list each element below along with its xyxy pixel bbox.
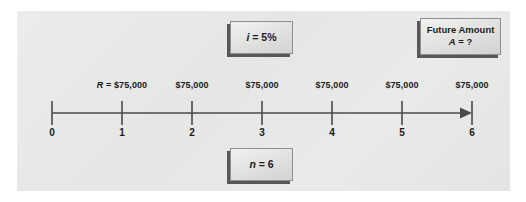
period-label-1: 1 (119, 127, 125, 138)
cash-flow-label-2: $75,000 (175, 80, 208, 90)
cash-flow-amount-4: $75,000 (315, 80, 348, 90)
cash-flow-amount-1: $75,000 (114, 80, 147, 90)
cash-flow-amount-6: $75,000 (455, 80, 488, 90)
period-label-6: 6 (469, 127, 475, 138)
axis-arrow-icon (460, 108, 472, 119)
timeline: R = $75,000 $75,000 $75,000 $75,000 $75,… (17, 11, 510, 191)
cash-flow-amount-5: $75,000 (385, 80, 418, 90)
period-label-3: 3 (259, 127, 265, 138)
cash-flow-label-1: R = $75,000 (97, 80, 147, 90)
cash-flow-prefix-1: R (97, 80, 104, 90)
cash-flow-amount-2: $75,000 (175, 80, 208, 90)
cash-flow-diagram-panel: i = 5% n = 6 Future Amount A = ? (17, 11, 510, 191)
period-label-2: 2 (189, 127, 195, 138)
cash-flow-label-3: $75,000 (245, 80, 278, 90)
period-label-0: 0 (49, 127, 55, 138)
period-label-5: 5 (399, 127, 405, 138)
cash-flow-equals-1: = (103, 80, 114, 90)
period-label-4: 4 (329, 127, 335, 138)
cash-flow-label-6: $75,000 (455, 80, 488, 90)
cash-flow-label-4: $75,000 (315, 80, 348, 90)
cash-flow-label-5: $75,000 (385, 80, 418, 90)
timeline-axis-svg (17, 11, 510, 191)
cash-flow-amount-3: $75,000 (245, 80, 278, 90)
